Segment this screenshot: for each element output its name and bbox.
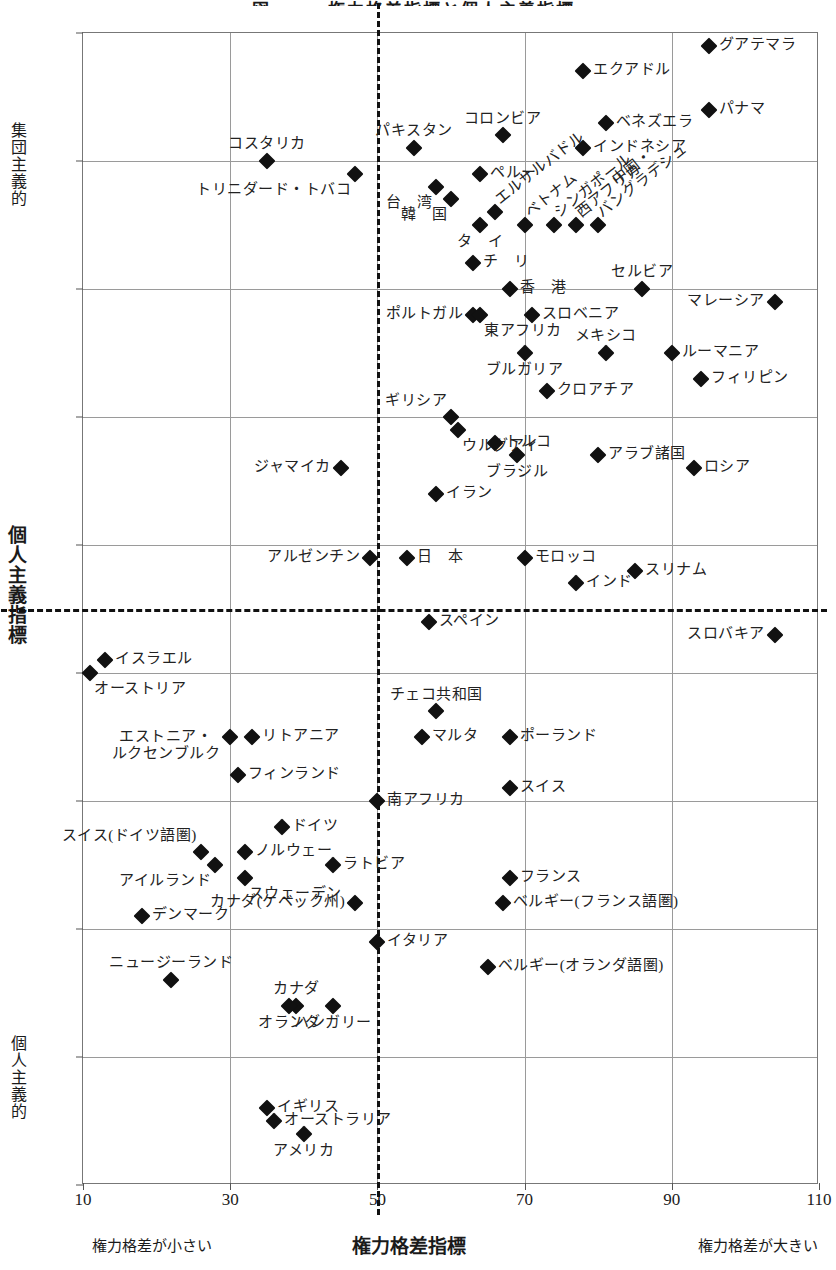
diamond-marker-icon <box>244 729 261 746</box>
y-axis-tick-mark <box>76 161 83 162</box>
reference-line-horizontal <box>1 609 827 612</box>
data-point-label: アルゼンチン <box>267 549 360 565</box>
diamond-marker-icon <box>406 140 423 157</box>
chart-title: 図 権力格差指標と個人主義指標 <box>0 0 826 6</box>
data-point-label: タ イ <box>457 234 504 250</box>
data-point-label: イタリア <box>387 933 448 949</box>
diamond-marker-icon <box>295 1125 312 1142</box>
diamond-marker-icon <box>479 959 496 976</box>
y-axis-tick-mark <box>76 1185 83 1186</box>
data-point-label: マルタ <box>432 728 479 744</box>
data-point-label: インド <box>586 574 633 590</box>
data-point-label: リトアニア <box>262 728 340 744</box>
diamond-marker-icon <box>428 485 445 502</box>
diamond-marker-icon <box>133 908 150 925</box>
diamond-marker-icon <box>472 217 489 234</box>
diamond-marker-icon <box>501 780 518 797</box>
diamond-marker-icon <box>222 729 239 746</box>
data-point-label: 東アフリカ <box>484 323 562 339</box>
diamond-marker-icon <box>494 127 511 144</box>
x-axis-tick-mark <box>672 1183 673 1190</box>
x-axis-tick-mark <box>819 1183 820 1190</box>
gridline-vertical <box>230 33 231 1183</box>
gridline-horizontal <box>83 929 817 930</box>
data-point-label: スリナム <box>645 562 707 578</box>
data-point-label: パナマ <box>719 101 766 117</box>
data-point-label: チ リ <box>483 254 530 270</box>
data-point-label: ジャマイカ <box>254 459 331 475</box>
diamond-marker-icon <box>369 933 386 950</box>
data-point-label: ルーマニア <box>682 344 760 360</box>
diamond-marker-icon <box>538 383 555 400</box>
data-point-label: ロシア <box>704 459 751 475</box>
data-point-label: カナダ <box>273 981 320 997</box>
diamond-marker-icon <box>428 178 445 195</box>
data-point-label: イスラエル <box>115 651 193 667</box>
data-point-label: ベルギー(オランダ語圏) <box>498 958 664 974</box>
diamond-marker-icon <box>634 281 651 298</box>
diamond-marker-icon <box>347 895 364 912</box>
data-point-label: 日 本 <box>417 549 464 565</box>
diamond-marker-icon <box>428 703 445 720</box>
data-point-label: クロアチア <box>557 382 635 398</box>
data-point-label: アメリカ <box>273 1143 334 1159</box>
y-axis-title: 個人主義指標 <box>6 525 26 645</box>
x-axis-tick-label: 70 <box>495 1191 555 1208</box>
x-axis-tick-label: 90 <box>642 1191 702 1208</box>
data-point-label: 香 港 <box>520 280 567 296</box>
diamond-marker-icon <box>420 613 437 630</box>
diamond-marker-icon <box>163 972 180 989</box>
data-point-label: アラブ諸国 <box>608 446 686 462</box>
data-point-label: ノルウェー <box>255 843 333 859</box>
data-point-label: コロンビア <box>464 111 542 127</box>
diamond-marker-icon <box>236 844 253 861</box>
gridline-vertical <box>672 33 673 1183</box>
diamond-marker-icon <box>693 370 710 387</box>
diamond-marker-icon <box>766 626 783 643</box>
data-point-label: フィリピン <box>711 370 789 386</box>
data-point-label: トリニダード・トバコ <box>196 182 351 198</box>
x-axis-tick-mark <box>230 1183 231 1190</box>
x-axis-note-right: 権力格差が大きい <box>698 1234 818 1255</box>
diamond-marker-icon <box>369 793 386 810</box>
data-point-label: ブラジル <box>486 464 548 480</box>
y-axis-tick-mark <box>76 417 83 418</box>
diamond-marker-icon <box>575 63 592 80</box>
y-axis-tick-mark <box>76 1057 83 1058</box>
diamond-marker-icon <box>597 114 614 131</box>
gridline-horizontal <box>83 1057 817 1058</box>
diamond-marker-icon <box>501 281 518 298</box>
plot-area: 51525354555657585951030507090110 グアテマラエク… <box>82 32 818 1184</box>
y-axis-tick-mark <box>76 289 83 290</box>
data-point-label: スロベニア <box>542 306 620 322</box>
diamond-marker-icon <box>325 857 342 874</box>
data-point-label: ニュージーランド <box>109 955 233 971</box>
data-point-label: アイルランド <box>119 873 211 889</box>
data-point-label: フランス <box>520 869 582 885</box>
y-axis-tick-mark <box>76 929 83 930</box>
data-point-label: ドイツ <box>292 818 339 834</box>
diamond-marker-icon <box>362 549 379 566</box>
data-point-label: ベルギー(フランス語圏) <box>513 894 679 910</box>
diamond-marker-icon <box>273 818 290 835</box>
data-point-label: スイス(ドイツ語圏) <box>62 828 197 844</box>
data-point-label: コスタリカ <box>228 136 306 152</box>
y-axis-note-top: 集団主義的 <box>8 122 25 207</box>
diamond-marker-icon <box>413 729 430 746</box>
data-point-label: ブルガリア <box>486 362 564 378</box>
diamond-marker-icon <box>259 153 276 170</box>
data-point-label: 韓 国 <box>401 207 448 223</box>
diamond-marker-icon <box>236 869 253 886</box>
y-axis-tick-mark <box>76 801 83 802</box>
diamond-marker-icon <box>229 767 246 784</box>
data-point-label: ベネズエラ <box>616 114 694 130</box>
gridline-horizontal <box>83 161 817 162</box>
diamond-marker-icon <box>398 549 415 566</box>
diamond-marker-icon <box>347 165 364 182</box>
y-axis-note-bottom: 個人主義的 <box>8 1035 25 1120</box>
data-point-label: イラン <box>446 485 493 501</box>
data-point-label: グアテマラ <box>719 37 797 53</box>
diamond-marker-icon <box>472 165 489 182</box>
diamond-marker-icon <box>332 460 349 477</box>
data-point-label: ギリシア <box>385 393 447 409</box>
